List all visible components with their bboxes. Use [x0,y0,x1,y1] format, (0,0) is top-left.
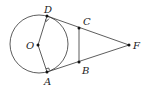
label-d: D [43,4,52,15]
point-a [46,71,49,74]
label-c: C [83,16,91,27]
geometry-diagram: D A O C B F [0,0,148,89]
label-b: B [81,65,89,76]
label-o: O [26,40,34,51]
point-b [78,61,81,64]
point-c [78,27,81,30]
point-o [37,44,40,47]
label-f: F [132,40,141,51]
label-a: A [43,76,51,87]
point-f [128,44,131,47]
segment-oa [38,45,47,72]
